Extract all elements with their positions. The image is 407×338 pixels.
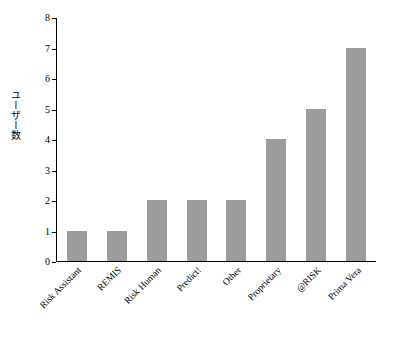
- y-tick-label: 2: [45, 196, 50, 206]
- bar-slot: [217, 18, 257, 261]
- bar-series: [57, 18, 376, 261]
- bar-slot: [97, 18, 137, 261]
- bar[interactable]: [67, 231, 87, 262]
- y-tick-label: 5: [45, 105, 50, 115]
- bar[interactable]: [266, 139, 286, 261]
- bar-slot: [296, 18, 336, 261]
- bar-chart: ユーザー数 012345678 Risk AssistantREMISRisk …: [0, 0, 407, 338]
- bar-slot: [177, 18, 217, 261]
- x-label-slot: Predict!: [176, 263, 216, 333]
- bar-slot: [256, 18, 296, 261]
- x-axis-tick-labels: Risk AssistantREMISRisk HumanPredict!Oth…: [56, 263, 376, 335]
- bar[interactable]: [306, 109, 326, 262]
- y-tick-label: 7: [45, 44, 50, 54]
- x-label-slot: Proprietary: [256, 263, 296, 333]
- y-tick-label: 4: [45, 135, 50, 145]
- plot-area: [56, 18, 376, 262]
- bar[interactable]: [147, 200, 167, 261]
- bar-slot: [57, 18, 97, 261]
- bar[interactable]: [226, 200, 246, 261]
- x-tick-label: Predict!: [175, 265, 204, 294]
- y-tick-label: 1: [45, 227, 50, 237]
- bar[interactable]: [187, 200, 207, 261]
- x-tick-label: REMIS: [95, 265, 123, 293]
- bar-slot: [336, 18, 376, 261]
- y-tick-label: 6: [45, 74, 50, 84]
- x-label-slot: Prima Vera: [336, 263, 376, 333]
- x-label-slot: Risk Assistant: [56, 263, 96, 333]
- y-tick-label: 0: [45, 257, 50, 267]
- y-axis-tick-labels: 012345678: [0, 0, 56, 338]
- bar[interactable]: [346, 48, 366, 262]
- bar-slot: [137, 18, 177, 261]
- y-tick-label: 8: [45, 13, 50, 23]
- y-tick-label: 3: [45, 166, 50, 176]
- bar[interactable]: [107, 231, 127, 262]
- x-label-slot: Risk Human: [136, 263, 176, 333]
- x-tick-label: @RISK: [294, 265, 323, 294]
- x-tick-label: Other: [221, 265, 244, 288]
